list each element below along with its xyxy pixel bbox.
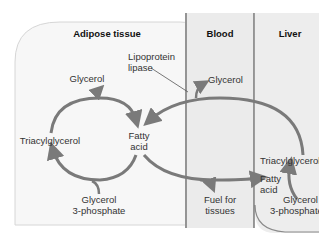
- liver-title: Liver: [279, 28, 302, 39]
- label-fatty-acid-liver-line1: Fatty: [260, 173, 281, 184]
- label-lipoprotein-lipase-line2: lipase: [128, 62, 153, 73]
- triacylglycerol-cycle-diagram: Adipose tissue Blood Liver Glycerol Tria…: [0, 0, 319, 238]
- label-glycerol-3-phosphate-adipose-line2: 3-phosphate: [73, 205, 126, 216]
- label-glycerol-3-phosphate-liver-line2: 3-phosphate: [270, 205, 319, 216]
- label-glycerol-3-phosphate-adipose-line1: Glycerol: [82, 194, 117, 205]
- label-fuel-for-tissues-line2: tissues: [205, 205, 235, 216]
- adipose-tissue-title: Adipose tissue: [73, 28, 141, 39]
- label-glycerol-blood: Glycerol: [208, 74, 243, 85]
- label-fuel-for-tissues-line1: Fuel for: [204, 194, 236, 205]
- label-glycerol-3-phosphate-liver-line1: Glycerol: [283, 194, 318, 205]
- label-fatty-acid-adipose-line1: Fatty: [128, 130, 149, 141]
- label-fatty-acid-liver-line2: acid: [260, 184, 277, 195]
- label-triacylglycerol-liver: Triacylglycerol: [260, 155, 319, 166]
- label-fatty-acid-adipose-line2: acid: [130, 141, 147, 152]
- blood-title: Blood: [207, 28, 234, 39]
- label-triacylglycerol-adipose: Triacylglycerol: [20, 135, 80, 146]
- label-glycerol-adipose: Glycerol: [70, 73, 105, 84]
- label-lipoprotein-lipase-line1: Lipoprotein: [128, 51, 175, 62]
